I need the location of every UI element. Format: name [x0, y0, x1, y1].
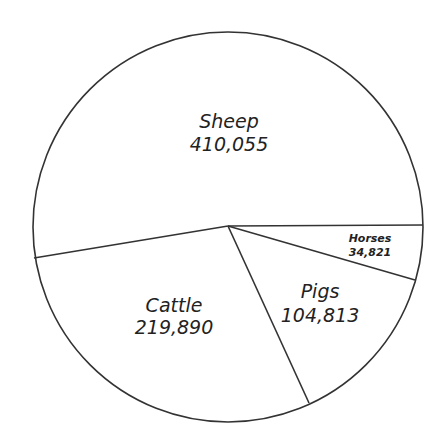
slice-value-sheep: 410,055 [190, 133, 269, 155]
slice-label-horses: Horses [349, 232, 392, 245]
slice-value-pigs: 104,813 [281, 304, 360, 326]
slice-label-cattle: Cattle [146, 294, 203, 316]
slice-horses: Horses 34,821 [349, 232, 392, 259]
slice-value-horses: 34,821 [349, 246, 391, 259]
slice-value-cattle: 219,890 [135, 316, 214, 338]
slice-cattle: Cattle 219,890 [135, 294, 214, 338]
divider-sheep-horses [228, 225, 423, 226]
slice-label-pigs: Pigs [301, 280, 340, 302]
pie-chart: Sheep 410,055 Horses 34,821 Cattle 219,8… [0, 0, 446, 437]
slice-label-sheep: Sheep [199, 110, 259, 132]
slice-sheep: Sheep 410,055 [190, 110, 269, 155]
